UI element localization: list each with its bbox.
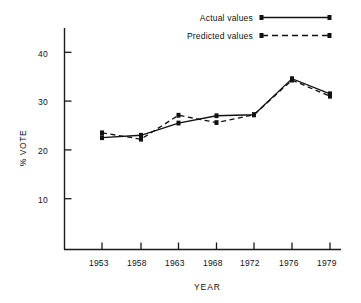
legend-marker-actual-right — [328, 15, 332, 20]
y-axis-tick-marks — [65, 52, 72, 198]
y-axis-title: % VOTE — [18, 123, 28, 173]
x-axis-title: YEAR — [194, 282, 221, 292]
series-line — [102, 80, 330, 139]
legend-label-predicted: Predicted values — [150, 31, 253, 41]
x-tick-label-1979: 1979 — [317, 258, 337, 268]
x-tick-label-1963: 1963 — [165, 258, 185, 268]
y-tick-label-30: 30 — [38, 97, 48, 107]
series-predicted-values — [100, 78, 332, 142]
legend-label-actual: Actual values — [150, 13, 253, 23]
x-tick-label-1972: 1972 — [240, 258, 260, 268]
x-axis-tick-marks — [102, 243, 330, 250]
x-tick-label-1953: 1953 — [89, 258, 109, 268]
y-tick-label-40: 40 — [38, 49, 48, 59]
x-tick-label-1976: 1976 — [279, 258, 299, 268]
x-tick-label-1958: 1958 — [127, 258, 147, 268]
data-point-1963 — [177, 113, 181, 118]
legend-marker-predicted-right — [328, 33, 332, 38]
data-point-1953 — [100, 135, 104, 140]
data-point-1963 — [177, 121, 181, 126]
data-point-1968 — [215, 113, 219, 118]
y-tick-label-10: 10 — [38, 195, 48, 205]
data-point-1976 — [290, 78, 294, 83]
data-point-1972 — [252, 112, 256, 117]
data-point-1953 — [100, 130, 104, 135]
legend-marker-actual-left — [260, 15, 264, 20]
y-tick-label-20: 20 — [38, 146, 48, 156]
data-point-1979 — [328, 94, 332, 99]
x-tick-label-1968: 1968 — [203, 258, 223, 268]
series-line — [102, 79, 330, 138]
legend-marker-predicted-left — [260, 33, 264, 38]
axis-lines — [64, 28, 341, 250]
series-actual-values — [100, 76, 332, 140]
data-series-layer — [100, 76, 332, 141]
data-point-1958 — [139, 137, 143, 142]
data-point-1968 — [215, 120, 219, 125]
chart-figure: Actual values Predicted values 40 30 20 … — [0, 0, 361, 303]
legend-sample-lines — [260, 15, 332, 38]
